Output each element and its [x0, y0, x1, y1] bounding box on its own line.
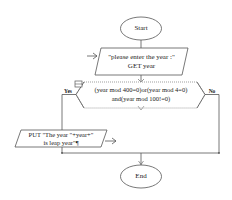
- end-label: End: [121, 172, 161, 180]
- input-line-1: "please enter the year :": [95, 53, 188, 61]
- decision-line-1: (year mod 400=0)or(year mod 4=0): [80, 86, 202, 94]
- decision-line-2: and(year mod 100!=0): [80, 95, 202, 103]
- start-label: Start: [121, 24, 161, 32]
- output-line-1: PUT "The year "+year+": [15, 131, 107, 139]
- input-line-2: GET year: [95, 62, 188, 70]
- yes-label: Yes: [61, 87, 75, 95]
- output-line-2: is leap year"¶: [15, 139, 107, 147]
- merge-dot-left: [61, 152, 63, 154]
- merge-dot-right: [218, 152, 220, 154]
- no-label: No: [206, 87, 218, 95]
